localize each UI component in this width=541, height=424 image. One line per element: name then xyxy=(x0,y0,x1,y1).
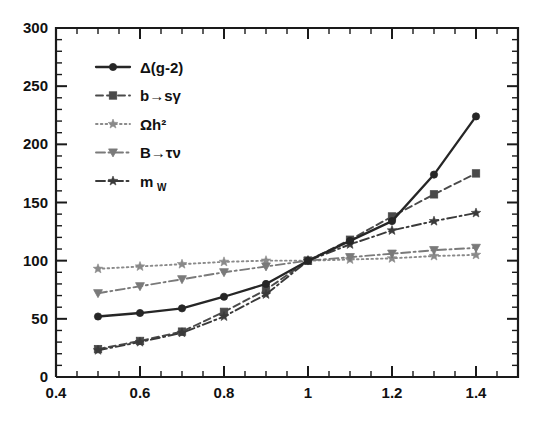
series-marker-delta-g-2 xyxy=(346,237,353,244)
legend-label-b-to-s-gamma: b→sγ xyxy=(140,87,182,104)
y-tick-label: 250 xyxy=(23,77,48,94)
series-marker-delta-g-2 xyxy=(94,313,101,320)
legend-label-delta-g-2: Δ(g-2) xyxy=(140,59,183,76)
series-marker-delta-g-2 xyxy=(178,305,185,312)
y-tick-label: 0 xyxy=(40,368,48,385)
x-tick-label: 0.6 xyxy=(130,384,151,401)
chart-figure: 050100150200250300 0.40.60.811.21.4 Δ(g-… xyxy=(0,0,541,424)
x-tick-label: 1.4 xyxy=(466,384,488,401)
y-tick-label: 150 xyxy=(23,194,48,211)
legend-marker-b-to-s-gamma xyxy=(109,92,116,99)
series-marker-delta-g-2 xyxy=(304,257,311,264)
series-marker-delta-g-2 xyxy=(220,293,227,300)
series-marker-delta-g-2 xyxy=(388,218,395,225)
y-tick-label: 50 xyxy=(31,310,48,327)
chart-background xyxy=(0,0,541,424)
legend-label-omega-h-squared: Ωh² xyxy=(140,116,166,133)
legend-label-sub-m-w: W xyxy=(157,182,167,193)
y-tick-label: 300 xyxy=(23,19,48,36)
legend-label-m-w: m xyxy=(140,173,153,190)
series-marker-delta-g-2 xyxy=(262,280,269,287)
series-marker-delta-g-2 xyxy=(136,309,143,316)
chart-canvas: 050100150200250300 0.40.60.811.21.4 Δ(g-… xyxy=(0,0,541,424)
series-marker-b-to-s-gamma xyxy=(430,191,437,198)
series-marker-delta-g-2 xyxy=(430,171,437,178)
x-tick-label: 1 xyxy=(304,384,312,401)
series-marker-delta-g-2 xyxy=(472,113,479,120)
y-tick-label: 200 xyxy=(23,135,48,152)
series-marker-b-to-s-gamma xyxy=(472,170,479,177)
x-tick-label: 0.4 xyxy=(46,384,68,401)
legend-marker-delta-g-2 xyxy=(109,63,116,70)
x-tick-label: 1.2 xyxy=(382,384,403,401)
y-tick-label: 100 xyxy=(23,252,48,269)
x-tick-label: 0.8 xyxy=(214,384,235,401)
legend-label-b-to-tau-nu: B→τν xyxy=(140,144,181,161)
